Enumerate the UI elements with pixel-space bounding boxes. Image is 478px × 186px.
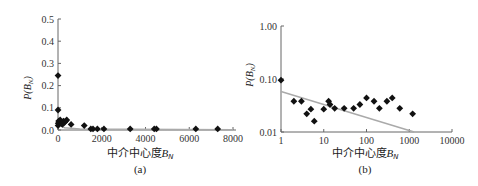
- x-tick-label: 100: [359, 135, 374, 146]
- y-tick-label: 0.10: [260, 74, 278, 85]
- panel-a-data-points: [55, 72, 221, 132]
- panel-a-chart: 0.00.10.20.30.40.5 02000400060008000 P(B…: [22, 14, 243, 177]
- y-tick-label: 0.5: [42, 14, 55, 25]
- data-point-marker: [396, 105, 403, 112]
- data-point-marker: [376, 105, 383, 112]
- data-point-marker: [311, 118, 318, 125]
- x-tick-label: 1000: [399, 135, 419, 146]
- data-point-marker: [320, 106, 327, 113]
- data-point-marker: [55, 72, 62, 79]
- y-tick-label: 0.0: [42, 125, 55, 136]
- y-tick-label: 1.00: [260, 21, 278, 32]
- figure: 0.00.10.20.30.40.5 02000400060008000 P(B…: [0, 0, 478, 186]
- y-tick-label: 0.1: [42, 102, 55, 113]
- data-point-marker: [371, 98, 378, 105]
- y-tick-label: 0.01: [260, 127, 278, 138]
- data-point-marker: [68, 121, 75, 128]
- x-tick-label: 0: [56, 133, 61, 144]
- data-point-marker: [303, 110, 310, 117]
- x-tick-label: 6000: [179, 133, 199, 144]
- data-point-marker: [356, 101, 363, 108]
- data-point-marker: [94, 125, 101, 132]
- data-point-marker: [409, 110, 416, 117]
- data-point-marker: [101, 125, 108, 132]
- data-point-marker: [214, 125, 221, 132]
- x-tick-label: 10: [319, 135, 329, 146]
- x-tick-label: 2000: [92, 133, 112, 144]
- data-point-marker: [307, 106, 314, 113]
- data-point-marker: [350, 105, 357, 112]
- x-tick-label: 1: [279, 135, 284, 146]
- panel-b-data-points: [278, 77, 416, 125]
- y-tick-label: 0.4: [42, 36, 55, 47]
- data-point-marker: [127, 125, 134, 132]
- panel-a-x-label: 中介中心度BN: [107, 146, 175, 161]
- panel-a-caption: (a): [134, 163, 147, 176]
- data-point-marker: [331, 105, 338, 112]
- y-tick-label: 0.3: [42, 58, 55, 69]
- x-tick-label: 10000: [440, 135, 465, 146]
- panel-b-caption: (b): [359, 163, 372, 176]
- data-point-marker: [192, 125, 199, 132]
- data-point-marker: [363, 94, 370, 101]
- data-point-marker: [383, 98, 390, 105]
- data-point-marker: [389, 94, 396, 101]
- panel-b-chart: 0.010.101.00 110100100010000 P(BN) 中介中心度…: [244, 21, 465, 177]
- data-point-marker: [278, 77, 285, 84]
- panel-b-y-label: P(BN): [244, 63, 257, 88]
- x-tick-label: 8000: [223, 133, 243, 144]
- x-tick-label: 4000: [136, 133, 156, 144]
- data-point-marker: [290, 98, 297, 105]
- panel-a-y-label: P(BN): [22, 76, 35, 101]
- y-tick-label: 0.2: [42, 80, 55, 91]
- panel-b-x-label: 中介中心度BN: [332, 146, 400, 161]
- data-point-marker: [81, 122, 88, 129]
